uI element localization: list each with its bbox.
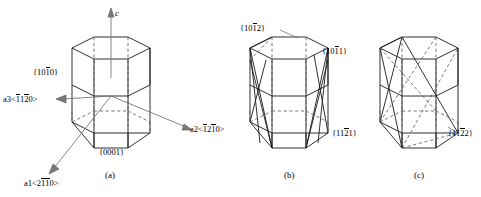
hidden-bottom-left [72,111,94,122]
caption-b: (b) [284,170,295,180]
top-edge-right [128,48,150,59]
hidden-bottom-right [436,111,458,122]
panel-b: {1012} {1011} {1121} (b) [222,0,362,197]
plane-trace-1 [380,48,402,148]
hidden-bottom-left [250,111,272,122]
bottom-hexagon-front [72,122,150,148]
panel-a: c {1010} a3<1120> a2<1210> {0001} a1<211… [0,0,222,197]
plane-trace-4 [402,37,458,133]
caption-a: (a) [105,170,115,180]
hidden-plane-top [250,37,272,60]
c-axis-arrowhead [108,8,114,17]
hidden-bottom-right [128,111,150,122]
panel-c-drawing [362,0,481,197]
plane-trace-3 [380,37,402,48]
a3-axis-arrowhead [56,95,66,103]
plane-label-1122: {1122} [448,127,473,138]
a3-axis-line [63,96,111,99]
plane-label-prism-1010: {1010} [33,66,58,77]
a1-axis-line [54,96,111,168]
axis-label-a2: a2<1210> [190,123,225,134]
crystallography-figure: c {1010} a3<1120> a2<1210> {0001} a1<211… [0,0,481,197]
bottom-hexagon-front [250,122,328,148]
a1-axis-arrowhead [49,164,59,174]
axis-label-a3: a3<1120> [3,93,38,104]
bottom-hexagon-front [380,122,458,148]
plane-label-1011: {1011} [322,45,347,56]
top-edge-right [436,48,458,59]
plane-label-1121: {1121} [332,127,357,138]
axis-label-a1: a1<2110> [24,177,59,188]
top-edge-left [250,48,272,59]
axis-label-c: c [115,8,119,18]
plane-label-basal-0001: {0001} [99,148,124,157]
plane-label-1012: {1012} [240,22,265,33]
caption-c: (c) [414,170,424,180]
top-edge-left [72,48,94,59]
a2-axis-line [111,96,186,127]
panel-c: {1122} (c) [362,0,481,197]
plane-trace-top-1 [250,37,272,48]
